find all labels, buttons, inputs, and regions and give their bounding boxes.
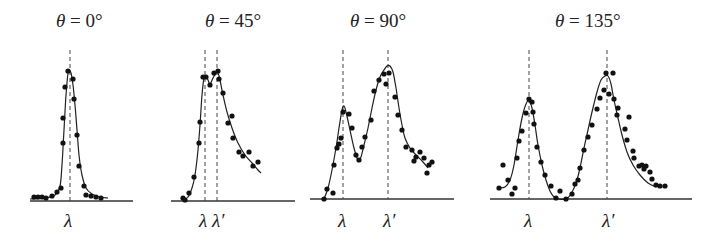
data-point	[631, 155, 636, 160]
panel-2	[310, 50, 454, 202]
data-point	[88, 193, 93, 198]
data-point	[220, 90, 225, 95]
data-point	[530, 109, 535, 114]
data-point	[429, 159, 434, 164]
panel-0	[30, 50, 133, 201]
data-point	[569, 191, 574, 196]
panel-title-45: θ = 45°	[205, 10, 261, 32]
data-point	[512, 185, 517, 190]
data-point	[182, 197, 187, 202]
data-point	[236, 149, 241, 154]
data-point	[383, 81, 388, 86]
data-point	[349, 125, 354, 130]
marker-label-lambda: λ	[524, 210, 532, 232]
marker-label-lambda: λ	[338, 210, 346, 232]
data-point	[356, 157, 361, 162]
data-point	[630, 148, 635, 153]
data-point	[321, 196, 326, 201]
data-point	[371, 88, 376, 93]
compton-scattering-figure: θ = 0° θ = 45° θ = 90° θ = 135° λ λ λ′ λ…	[0, 0, 722, 238]
data-point	[529, 99, 534, 104]
data-point	[196, 140, 201, 145]
data-point	[597, 95, 602, 100]
marker-label-lambda-prime: λ′	[602, 210, 614, 232]
data-point	[399, 127, 404, 132]
data-point	[250, 163, 255, 168]
data-point	[626, 114, 631, 119]
data-point	[76, 163, 81, 168]
plot-canvas	[0, 0, 722, 238]
data-point	[500, 162, 505, 167]
data-point	[186, 190, 191, 195]
data-point	[62, 84, 67, 89]
data-point	[589, 122, 594, 127]
data-point	[557, 188, 562, 193]
data-point	[246, 149, 251, 154]
data-point	[230, 135, 235, 140]
data-point	[255, 159, 260, 164]
data-point	[553, 195, 558, 200]
data-point	[225, 120, 230, 125]
data-point	[514, 155, 519, 160]
data-point	[229, 113, 234, 118]
data-point	[362, 134, 367, 139]
data-point	[610, 70, 615, 75]
data-point	[83, 192, 88, 197]
data-point	[622, 126, 627, 131]
theta-symbol: θ	[555, 10, 564, 31]
panel-title-90: θ = 90°	[350, 10, 406, 32]
panel-title-0: θ = 0°	[56, 10, 103, 32]
data-point	[336, 141, 341, 146]
data-point	[392, 94, 397, 99]
data-point	[58, 185, 63, 190]
data-point	[575, 177, 580, 182]
data-point	[496, 185, 501, 190]
theta-symbol: θ	[350, 10, 359, 31]
data-point	[662, 183, 667, 188]
data-point	[509, 191, 514, 196]
data-point	[421, 155, 426, 160]
data-point	[330, 190, 335, 195]
data-point	[216, 76, 221, 81]
data-point	[534, 144, 539, 149]
data-point	[353, 152, 358, 157]
data-point	[531, 121, 536, 126]
fit-curve	[324, 65, 428, 199]
data-point	[624, 137, 629, 142]
marker-label-lambda: λ	[64, 210, 72, 232]
data-point	[324, 186, 329, 191]
data-point	[60, 115, 65, 120]
data-point	[43, 195, 48, 200]
marker-label-lambda: λ	[199, 210, 207, 232]
data-point	[614, 112, 619, 117]
data-point	[548, 183, 553, 188]
data-point	[240, 153, 245, 158]
data-point	[54, 189, 59, 194]
data-point	[601, 87, 606, 92]
data-point	[603, 70, 608, 75]
data-point	[519, 128, 524, 133]
fit-curve	[30, 70, 108, 199]
data-point	[381, 71, 386, 76]
data-point	[207, 82, 212, 87]
data-point	[505, 177, 510, 182]
data-point	[563, 196, 568, 201]
marker-label-lambda-prime: λ′	[383, 210, 395, 232]
data-point	[340, 109, 345, 114]
data-point	[409, 147, 414, 152]
data-point	[65, 68, 70, 73]
panel-title-135: θ = 135°	[555, 10, 621, 32]
title-text: = 135°	[564, 10, 620, 31]
data-point	[338, 135, 343, 140]
data-point	[70, 76, 75, 81]
data-point	[376, 77, 381, 82]
data-point	[71, 96, 76, 101]
panel-3	[490, 50, 692, 202]
data-point	[516, 138, 521, 143]
panel-1	[171, 50, 295, 203]
data-point	[538, 159, 543, 164]
data-point	[657, 183, 662, 188]
marker-label-lambda-prime: λ′	[212, 210, 224, 232]
theta-symbol: θ	[205, 10, 214, 31]
data-point	[643, 163, 648, 168]
